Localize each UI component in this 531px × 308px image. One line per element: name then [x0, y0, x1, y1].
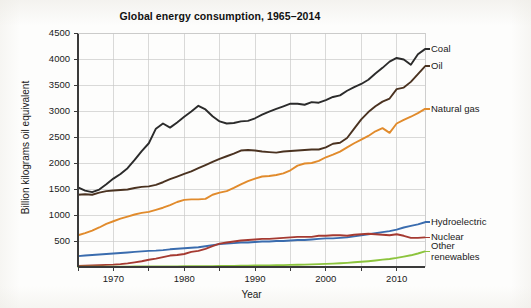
- series-label-other-renewables: Otherrenewables: [431, 240, 480, 262]
- series-line-oil: [78, 66, 425, 194]
- data-series-layer: [78, 49, 425, 267]
- x-axis-label: Year: [78, 289, 425, 300]
- y-tick-label: 2000: [30, 157, 70, 168]
- series-line-coal: [78, 49, 425, 192]
- x-tick-label: 2000: [306, 273, 346, 284]
- series-label-hydroelectric: Hydroelectric: [431, 216, 486, 227]
- series-line-other-renewables: [78, 251, 425, 266]
- x-tick-label: 1980: [164, 273, 204, 284]
- y-tick-label: 500: [30, 235, 70, 246]
- x-tick-label: 2010: [377, 273, 417, 284]
- y-tick-label: 4000: [30, 53, 70, 64]
- y-tick-label: 1000: [30, 209, 70, 220]
- label-leader-lines: [425, 49, 430, 251]
- series-label-coal: Coal: [431, 43, 451, 54]
- x-tick-label: 1990: [235, 273, 275, 284]
- y-tick-label: 2500: [30, 131, 70, 142]
- y-tick-label: 3000: [30, 105, 70, 116]
- series-line-natural-gas: [78, 109, 425, 235]
- series-label-natural-gas: Natural gas: [431, 103, 480, 114]
- y-tick-label: 1500: [30, 183, 70, 194]
- x-tick-label: 1970: [93, 273, 133, 284]
- y-tick-label: 3500: [30, 79, 70, 90]
- series-label-oil: Oil: [431, 60, 443, 71]
- chart-figure: Global energy consumption, 1965–2014 Bil…: [0, 0, 531, 308]
- y-tick-label: 4500: [30, 27, 70, 38]
